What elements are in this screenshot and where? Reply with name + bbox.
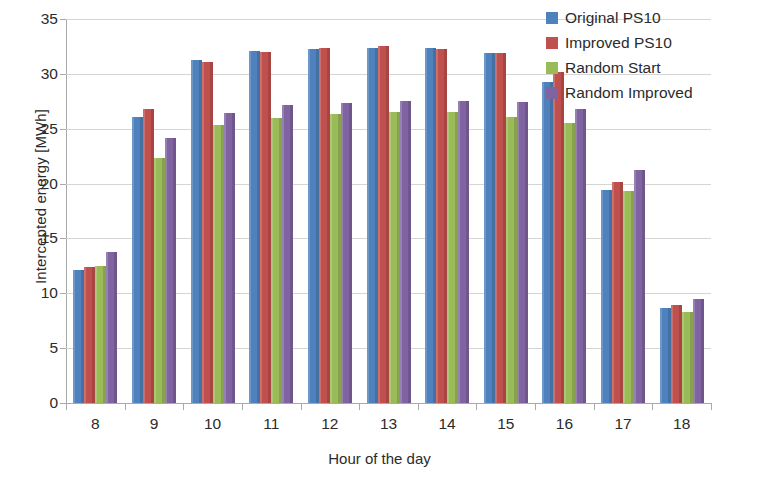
legend-swatch-icon (546, 62, 558, 74)
bar-highlight (542, 82, 544, 403)
bar-group (249, 19, 293, 403)
bar-highlight (308, 49, 310, 403)
legend-label: Random Improved (565, 84, 693, 102)
bar-highlight (495, 53, 497, 403)
legend-label: Improved PS10 (565, 34, 672, 52)
bar-highlight (425, 48, 427, 403)
bar (634, 170, 645, 403)
x-axis-tick-mark (418, 403, 419, 410)
bar (671, 305, 682, 403)
y-axis-tick-mark (60, 74, 66, 75)
bar-chart: Intercepted energy [MWh] 05101520253035 … (0, 0, 759, 479)
bar (693, 299, 704, 403)
x-axis-tick-label: 14 (417, 415, 477, 433)
bar-highlight (249, 51, 251, 403)
x-axis-title: Hour of the day (0, 450, 759, 467)
bar-group (132, 19, 176, 403)
legend-swatch-icon (546, 87, 558, 99)
bar-group (73, 19, 117, 403)
bar-shading (290, 105, 293, 403)
legend-swatch-icon (546, 37, 558, 49)
y-axis-tick-mark (60, 238, 66, 239)
bar-highlight (660, 308, 662, 403)
bar-highlight (400, 101, 402, 403)
x-axis-tick-mark (594, 403, 595, 410)
bar (564, 123, 575, 403)
y-axis-tick-mark (60, 184, 66, 185)
bar-highlight (458, 101, 460, 403)
bar-highlight (73, 270, 75, 403)
x-axis-tick-mark (66, 403, 67, 410)
bar (191, 60, 202, 403)
bar-shading (232, 113, 235, 403)
x-axis-tick-mark (476, 403, 477, 410)
bar-highlight (612, 182, 614, 403)
bar-highlight (213, 125, 215, 403)
y-axis-tick-mark (60, 403, 66, 404)
bar (249, 51, 260, 403)
bar (425, 48, 436, 403)
bar-highlight (165, 138, 167, 404)
bar-highlight (84, 267, 86, 403)
bar-highlight (671, 305, 673, 403)
y-axis-tick-label: 0 (12, 394, 58, 412)
x-axis-tick-mark (359, 403, 360, 410)
bar-highlight (106, 252, 108, 403)
bar-shading (466, 101, 469, 403)
y-axis-tick-label: 35 (12, 10, 58, 28)
bar-shading (173, 138, 176, 404)
y-axis-tick-label: 20 (12, 175, 58, 193)
x-axis-tick-mark (535, 403, 536, 410)
y-axis-tick-label: 30 (12, 65, 58, 83)
bar-highlight (367, 48, 369, 403)
bar (506, 117, 517, 403)
bar-highlight (564, 123, 566, 403)
y-axis-tick-label: 15 (12, 229, 58, 247)
x-axis-tick-mark (652, 403, 653, 410)
bar (378, 46, 389, 403)
bar (575, 109, 586, 403)
legend: Original PS10Improved PS10Random StartRa… (546, 6, 756, 106)
bar-highlight (154, 158, 156, 403)
bar (73, 270, 84, 403)
x-axis-tick-label: 9 (124, 415, 184, 433)
bar (517, 102, 528, 403)
bar (308, 49, 319, 403)
bar-shading (583, 109, 586, 403)
y-axis-tick-labels: 05101520253035 (0, 0, 58, 479)
bar-highlight (191, 60, 193, 403)
bar (553, 72, 564, 403)
bar (84, 267, 95, 403)
bar (224, 113, 235, 403)
x-axis-tick-label: 15 (476, 415, 536, 433)
bar-highlight (601, 190, 603, 403)
bar-highlight (623, 191, 625, 403)
bar-highlight (634, 170, 636, 403)
x-axis-tick-label: 10 (183, 415, 243, 433)
legend-item: Random Improved (546, 81, 756, 105)
bar-highlight (682, 312, 684, 403)
y-axis-tick-mark (60, 293, 66, 294)
y-axis-tick-mark (60, 19, 66, 20)
bar-highlight (553, 72, 555, 403)
bar (271, 118, 282, 403)
bar-group (191, 19, 235, 403)
bar-highlight (271, 118, 273, 403)
x-axis-tick-label: 8 (65, 415, 125, 433)
x-axis-tick-label: 17 (593, 415, 653, 433)
bar-highlight (575, 109, 577, 403)
bar-highlight (484, 53, 486, 403)
y-axis-tick-label: 25 (12, 120, 58, 138)
bar (106, 252, 117, 403)
x-axis-line (66, 403, 712, 404)
bar (495, 53, 506, 403)
legend-label: Original PS10 (565, 9, 661, 27)
bar-highlight (224, 113, 226, 403)
bar-highlight (282, 105, 284, 403)
bar (341, 103, 352, 403)
bar (282, 105, 293, 403)
bar-highlight (341, 103, 343, 403)
bar-highlight (378, 46, 380, 403)
legend-item: Random Start (546, 56, 756, 80)
bar-shading (408, 101, 411, 403)
